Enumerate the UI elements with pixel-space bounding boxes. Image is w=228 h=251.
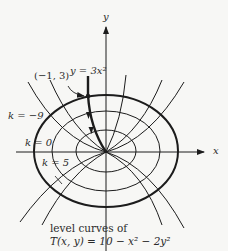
k-neg9-label: k = −9 <box>8 111 44 121</box>
k-0-label: k = 0 <box>25 138 52 148</box>
x-axis-label: x <box>213 146 219 156</box>
level-curves-diagram <box>0 0 228 251</box>
k-5-label: k = 5 <box>42 158 69 168</box>
point-label: (−1, 3) <box>34 71 69 81</box>
caption-line-1: level curves of <box>50 223 127 234</box>
caption-line-2: T(x, y) = 10 − x² − 2y² <box>50 236 170 247</box>
point-marker <box>86 94 90 98</box>
curve-equation-label: y = 3x² <box>70 66 106 76</box>
y-axis-label: y <box>103 12 109 22</box>
point-pointer <box>68 86 84 96</box>
